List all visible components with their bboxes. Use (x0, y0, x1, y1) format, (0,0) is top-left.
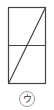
label-text: ウ (23, 95, 32, 104)
figure-label: ウ (19, 91, 35, 107)
